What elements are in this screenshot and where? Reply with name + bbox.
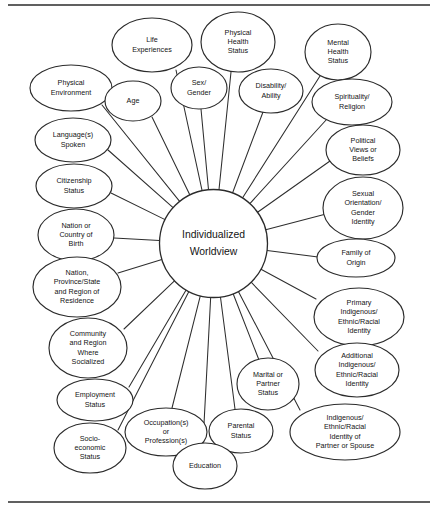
node-employment-status: EmploymentStatus [57, 379, 133, 421]
node-physical-health-status: PhysicalHealthStatus [201, 12, 275, 72]
node-nation-province-state-region-of-residence: Nation,Province/Stateand Region ofReside… [33, 257, 121, 317]
node-sex-gender: Sex/Gender [171, 67, 227, 109]
node-life-experiences: LifeExperiences [112, 18, 192, 72]
node-age: Age [105, 81, 161, 121]
diagram-canvas: LifeExperiencesPhysicalHealthStatusMenta… [0, 0, 437, 515]
node-label: Spirituality/Religion [334, 92, 369, 110]
node-socio-economic-status: Socio-economicStatus [54, 423, 126, 473]
hub-circle [160, 190, 268, 298]
node-citizenship-status: CitizenshipStatus [36, 164, 112, 208]
node-primary-indigenous-ethnic-racial-identity: PrimaryIndigenous/Ethnic/RacialIdentity [314, 288, 404, 346]
node-label: PhysicalHealthStatus [225, 28, 252, 55]
node-education: Education [173, 443, 237, 489]
node-disability-ability: Disability/Ability [239, 69, 303, 113]
node-label: Education [189, 461, 221, 470]
node-physical-environment: PhysicalEnvironment [30, 65, 112, 111]
node-additional-indigenous-ethnic-racial-identity: AdditionalIndigenous/Ethnic/RacialIdenti… [315, 343, 399, 397]
worldview-diagram: LifeExperiencesPhysicalHealthStatusMenta… [0, 0, 437, 515]
node-family-of-origin: Family ofOrigin [317, 239, 395, 277]
node-label: ParentalStatus [228, 421, 255, 439]
node-label: Age [127, 96, 140, 105]
node-label: PoliticalViews orBeliefs [349, 136, 377, 163]
node-languages-spoken: Language(s)Spoken [35, 118, 111, 162]
node-political-views-or-beliefs: PoliticalViews orBeliefs [326, 125, 400, 175]
node-spirituality-religion: Spirituality/Religion [312, 79, 392, 125]
node-marital-or-partner-status: Marital orPartnerStatus [237, 358, 299, 410]
node-indigenous-ethnic-racial-identity-of-partner-or-spouse: Indigenous/Ethnic/RacialIdentity ofPartn… [290, 404, 400, 460]
node-nation-or-country-of-birth: Nation orCountry ofBirth [38, 209, 114, 261]
central-hub: IndividualizedWorldview [160, 190, 268, 298]
node-community-and-region-where-socialized: Communityand RegionWhereSocialized [49, 318, 127, 378]
node-label: MentalHealthStatus [327, 38, 349, 65]
node-mental-health-status: MentalHealthStatus [305, 24, 371, 80]
node-sexual-orientation-gender-identity: SexualOrientation/GenderIdentity [323, 177, 403, 239]
